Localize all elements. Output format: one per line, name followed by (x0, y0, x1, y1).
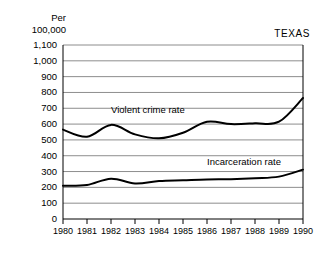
x-tick-label: 1990 (290, 226, 316, 236)
y-tick-label: 500 (15, 135, 57, 145)
x-tick-label: 1986 (194, 226, 220, 236)
y-tick-label: 200 (15, 182, 57, 192)
x-tick-label: 1980 (50, 226, 76, 236)
x-tick-label: 1989 (266, 226, 292, 236)
x-tick-label: 1987 (218, 226, 244, 236)
series-label-violent-crime-rate: Violent crime rate (111, 104, 185, 115)
y-tick-label: 0 (15, 214, 57, 224)
x-tick-label: 1985 (170, 226, 196, 236)
x-tick-label: 1983 (122, 226, 148, 236)
y-tick-label: 100 (15, 198, 57, 208)
y-tick-label: 1,000 (15, 56, 57, 66)
x-tick-label: 1981 (74, 226, 100, 236)
y-tick-label: 900 (15, 72, 57, 82)
series-line-incarceration-rate (63, 170, 303, 186)
x-tick-label: 1984 (146, 226, 172, 236)
y-tick-label: 600 (15, 119, 57, 129)
y-tick-label: 1,100 (15, 40, 57, 50)
chart-container: Per 100,000 TEXAS 1,1001,000900800700600… (0, 0, 322, 254)
y-tick-label: 800 (15, 87, 57, 97)
y-tick-label: 700 (15, 103, 57, 113)
x-tick-label: 1988 (242, 226, 268, 236)
y-tick-label: 300 (15, 167, 57, 177)
x-tick-label: 1982 (98, 226, 124, 236)
y-tick-label: 400 (15, 151, 57, 161)
series-label-incarceration-rate: Incarceration rate (207, 156, 281, 167)
